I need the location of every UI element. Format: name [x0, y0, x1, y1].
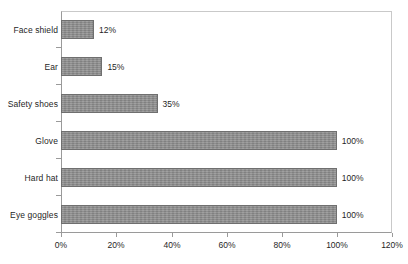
y-axis-tick: [56, 195, 61, 196]
x-axis-tick-label: 0%: [39, 240, 83, 251]
category-label: Ear: [0, 62, 58, 72]
x-axis-tick: [337, 233, 338, 237]
bar: [61, 205, 337, 224]
bar: [61, 57, 102, 76]
bar: [61, 20, 94, 39]
bar-rows: Face shield 12% Ear 15% Safety shoes 35%…: [0, 11, 408, 233]
category-label: Eye goggles: [0, 210, 58, 220]
bar: [61, 131, 337, 150]
x-axis-tick-label: 100%: [315, 240, 359, 251]
y-axis-tick: [56, 84, 61, 85]
y-axis-tick: [56, 47, 61, 48]
bar: [61, 168, 337, 187]
y-axis-tick: [56, 158, 61, 159]
x-axis-tick-label: 60%: [205, 240, 249, 251]
bar-value-label: 100%: [342, 173, 364, 183]
bar: [61, 94, 158, 113]
chart-row: Ear 15%: [0, 48, 408, 85]
bar-value-label: 35%: [163, 99, 180, 109]
bar-value-label: 12%: [99, 25, 116, 35]
x-axis-tick-label: 120%: [370, 240, 408, 251]
bar-value-label: 100%: [342, 210, 364, 220]
category-label: Face shield: [0, 25, 58, 35]
bar-value-label: 15%: [107, 62, 124, 72]
x-axis-tick-label: 20%: [94, 240, 138, 251]
chart-row: Face shield 12%: [0, 11, 408, 48]
x-axis-tick: [172, 233, 173, 237]
x-axis-tick: [392, 233, 393, 237]
bar-group: 12%: [61, 20, 116, 39]
chart-row: Glove 100%: [0, 122, 408, 159]
x-axis-tick: [282, 233, 283, 237]
chart-row: Safety shoes 35%: [0, 85, 408, 122]
x-axis: 0% 20% 40% 60% 80% 100% 120%: [0, 233, 408, 264]
x-axis-tick: [61, 233, 62, 237]
bar-group: 100%: [61, 205, 364, 224]
bar-chart: Face shield 12% Ear 15% Safety shoes 35%…: [0, 0, 408, 264]
bar-group: 15%: [61, 57, 124, 76]
x-axis-tick: [227, 233, 228, 237]
chart-row: Eye goggles 100%: [0, 196, 408, 233]
bar-value-label: 100%: [342, 136, 364, 146]
category-label: Glove: [0, 136, 58, 146]
category-label: Hard hat: [0, 173, 58, 183]
bar-group: 100%: [61, 168, 364, 187]
category-label: Safety shoes: [0, 99, 58, 109]
chart-row: Hard hat 100%: [0, 159, 408, 196]
y-axis-tick: [56, 121, 61, 122]
bar-group: 35%: [61, 94, 180, 113]
x-axis-tick: [116, 233, 117, 237]
bar-group: 100%: [61, 131, 364, 150]
x-axis-tick-label: 80%: [260, 240, 304, 251]
x-axis-tick-label: 40%: [150, 240, 194, 251]
